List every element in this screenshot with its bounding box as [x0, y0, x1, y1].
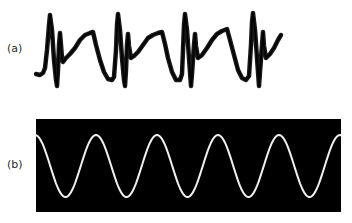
figure-canvas	[0, 0, 352, 223]
panel-b-oscilloscope	[36, 119, 341, 212]
signal-trace	[36, 13, 281, 86]
panel-a-signal	[36, 13, 281, 86]
